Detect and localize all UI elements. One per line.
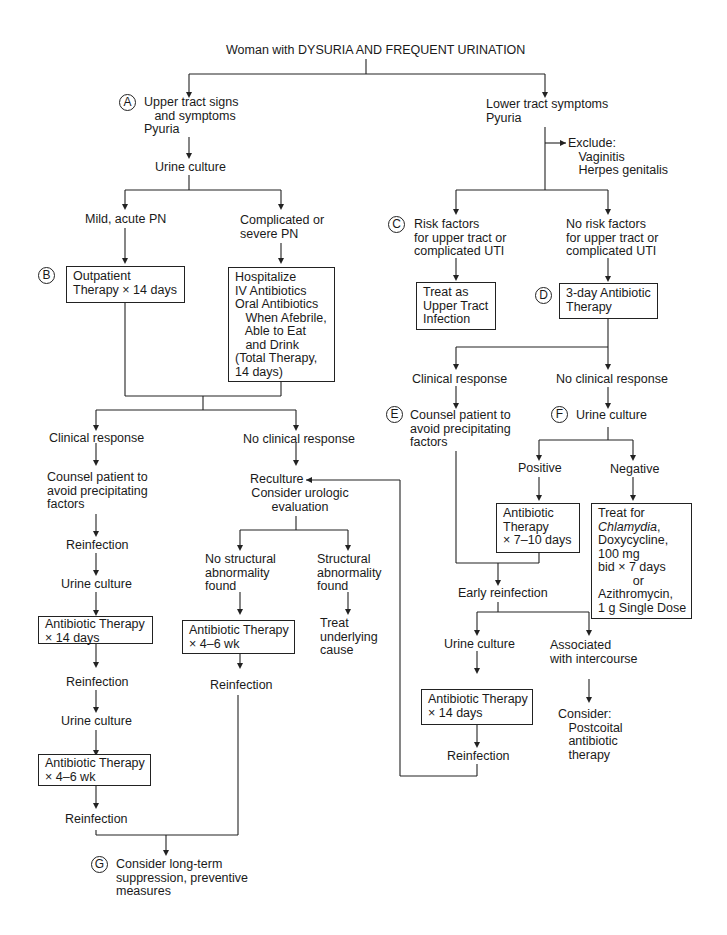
chlamydia-treat-for: Treat for xyxy=(598,506,645,520)
upper-reinfection-3: Reinfection xyxy=(65,813,128,827)
badge-f: F xyxy=(551,406,568,423)
culture-positive: Positive xyxy=(518,462,562,476)
lower-tract-symptoms: Lower tract symptoms Pyuria xyxy=(486,98,608,125)
urine-culture: Urine culture xyxy=(155,161,226,175)
treat-chlamydia-box: Treat for Chlamydia, Doxycycline, 100 mg… xyxy=(591,503,692,619)
no-structural-abnormality: No structural abnormality found xyxy=(205,553,276,594)
upper-reinfection-1: Reinfection xyxy=(66,539,129,553)
badge-c: C xyxy=(388,216,405,233)
upper-reinfection-2: Reinfection xyxy=(66,676,129,690)
outpatient-therapy-box: Outpatient Therapy × 14 days xyxy=(66,266,185,303)
culture-negative: Negative xyxy=(610,463,659,477)
complicated-severe-pn: Complicated or severe PN xyxy=(240,214,324,241)
risk-factors: Risk factors for upper tract or complica… xyxy=(414,218,506,259)
badge-a: A xyxy=(119,94,136,111)
upper-urine-culture-2: Urine culture xyxy=(61,578,132,592)
badge-e: E xyxy=(386,406,403,423)
antibiotic-4-6-wk-box: Antibiotic Therapy × 4–6 wk xyxy=(38,754,151,786)
upper-reinfection-4: Reinfection xyxy=(210,679,273,693)
antibiotic-14-days-box: Antibiotic Therapy × 14 days xyxy=(38,616,153,644)
treat-upper-tract-box: Treat as Upper Tract Infection xyxy=(416,282,496,330)
lower-clinical-response: Clinical response xyxy=(412,373,507,387)
lower-urine-culture: Urine culture xyxy=(576,409,647,423)
lower-reinfection: Reinfection xyxy=(447,750,510,764)
consider-postcoital: Consider: Postcoital antibiotic therapy xyxy=(558,708,623,762)
lower-counsel-patient: Counsel patient to avoid precipitating f… xyxy=(410,409,511,450)
upper-urine-culture-3: Urine culture xyxy=(61,715,132,729)
upper-clinical-response: Clinical response xyxy=(49,432,144,446)
exclude-list: Exclude: Vaginitis Herpes genitalis xyxy=(568,137,668,178)
antibiotic-7-10-days-box: Antibiotic Therapy × 7–10 days xyxy=(496,503,580,553)
antibiotic-4-6-wk-box-b: Antibiotic Therapy × 4–6 wk xyxy=(182,620,295,654)
mild-acute-pn: Mild, acute PN xyxy=(85,213,166,227)
lower-urine-culture-2: Urine culture xyxy=(444,638,515,652)
badge-g: G xyxy=(91,856,108,873)
no-risk-factors: No risk factors for upper tract or compl… xyxy=(566,218,658,259)
flowchart-title: Woman with DYSURIA AND FREQUENT URINATIO… xyxy=(226,44,525,58)
uti-flowchart: Woman with DYSURIA AND FREQUENT URINATIO… xyxy=(0,0,727,935)
chlamydia-italic: Chlamydia xyxy=(598,520,657,534)
chlamydia-regimen: , Doxycycline, 100 mg bid × 7 days or Az… xyxy=(598,520,686,615)
lower-antibiotic-14-days-box: Antibiotic Therapy × 14 days xyxy=(421,689,533,725)
lower-no-clinical-response: No clinical response xyxy=(556,373,668,387)
upper-no-clinical-response: No clinical response xyxy=(243,433,355,447)
upper-tract-signs: Upper tract signs and symptoms Pyuria xyxy=(144,96,238,137)
three-day-antibiotic-box: 3-day Antibiotic Therapy xyxy=(559,283,658,319)
treat-underlying-cause: Treat underlying cause xyxy=(320,617,378,658)
reculture: Reculture xyxy=(250,473,304,487)
badge-b: B xyxy=(38,267,55,284)
upper-counsel-patient: Counsel patient to avoid precipitating f… xyxy=(47,471,148,512)
structural-abnormality: Structural abnormality found xyxy=(317,553,382,594)
consider-long-term-suppression: Consider long-term suppression, preventi… xyxy=(116,858,248,899)
badge-d: D xyxy=(535,287,552,304)
hospitalize-box: Hospitalize IV Antibiotics Oral Antibiot… xyxy=(228,267,335,382)
early-reinfection: Early reinfection xyxy=(458,587,548,601)
consider-urologic-evaluation: Consider urologic evaluation xyxy=(250,487,350,514)
associated-with-intercourse: Associated with intercourse xyxy=(550,639,638,666)
